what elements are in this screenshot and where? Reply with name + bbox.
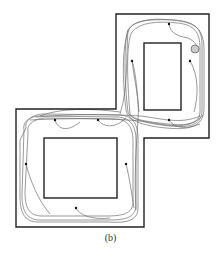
start-point xyxy=(25,163,27,165)
start-point xyxy=(125,163,127,165)
start-point xyxy=(97,119,99,121)
figure-caption: (b) xyxy=(0,232,221,243)
trajectory-diagram xyxy=(0,0,221,258)
start-point xyxy=(168,119,170,121)
start-point xyxy=(189,60,191,62)
lower-obstacle xyxy=(44,138,117,198)
goal-marker xyxy=(191,45,199,53)
start-point xyxy=(168,23,170,25)
upper-obstacle xyxy=(144,43,181,110)
start-point xyxy=(75,207,77,209)
start-point xyxy=(131,60,133,62)
start-point xyxy=(54,119,56,121)
